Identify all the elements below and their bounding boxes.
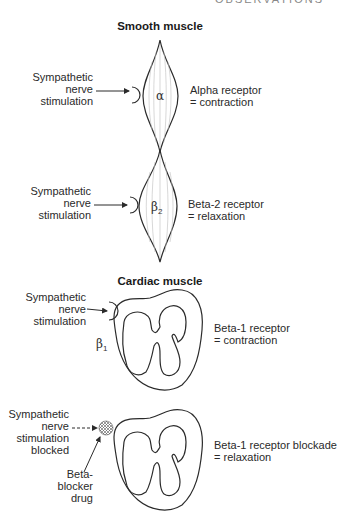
beta2-muscle-cell: β2 — [139, 150, 177, 262]
page-header-partial: OBSERVATIONS — [215, 0, 324, 5]
svg-text:= relaxation: = relaxation — [188, 210, 245, 222]
smooth-muscle-title: Smooth muscle — [117, 20, 203, 32]
svg-text:= contraction: = contraction — [214, 334, 277, 346]
beta2-stimulus-label: Sympathetic nerve stimulation — [30, 185, 91, 221]
svg-text:Sympathetic: Sympathetic — [32, 71, 93, 83]
svg-text:= relaxation: = relaxation — [214, 451, 271, 463]
svg-text:drug: drug — [71, 492, 93, 504]
svg-text:blocked: blocked — [31, 444, 69, 456]
beta2-symbol: β2 — [151, 200, 163, 216]
beta2-effect-label: Beta-2 receptor = relaxation — [188, 198, 264, 222]
blocked-stimulus-label: Sympathetic nerve stimulation blocked — [8, 408, 69, 456]
svg-text:Beta-1 receptor blockade: Beta-1 receptor blockade — [214, 439, 337, 451]
beta1-stimulus-arrow — [87, 309, 107, 311]
svg-text:nerve: nerve — [41, 420, 69, 432]
svg-text:= contraction: = contraction — [190, 96, 253, 108]
svg-text:Sympathetic: Sympathetic — [8, 408, 69, 420]
svg-text:Sympathetic: Sympathetic — [30, 185, 91, 197]
beta1-effect-label: Beta-1 receptor = contraction — [214, 322, 290, 346]
alpha-stimulus-label: Sympathetic nerve stimulation — [32, 71, 93, 107]
svg-text:Beta-2 receptor: Beta-2 receptor — [188, 198, 264, 210]
alpha-symbol: α — [156, 89, 164, 103]
drug-arrow — [84, 437, 100, 472]
svg-text:stimulation: stimulation — [33, 315, 86, 327]
svg-text:Alpha receptor: Alpha receptor — [190, 84, 262, 96]
beta1-symbol: β1 — [96, 337, 108, 353]
alpha-effect-label: Alpha receptor = contraction — [190, 84, 262, 108]
blockade-effect-label: Beta-1 receptor blockade = relaxation — [214, 439, 337, 463]
svg-text:Beta-: Beta- — [67, 468, 94, 480]
svg-text:stimulation: stimulation — [38, 209, 91, 221]
heart-blocked — [114, 410, 202, 510]
svg-text:nerve: nerve — [58, 303, 86, 315]
cardiac-muscle-title: Cardiac muscle — [117, 275, 202, 287]
beta1-stimulus-label: Sympathetic nerve stimulation — [25, 291, 86, 327]
heart-beta1 — [114, 290, 202, 390]
svg-text:nerve: nerve — [63, 197, 91, 209]
beta-blocker-bound-receptor-icon — [99, 421, 113, 435]
svg-text:Beta-1 receptor: Beta-1 receptor — [214, 322, 290, 334]
svg-text:stimulation: stimulation — [16, 432, 69, 444]
svg-text:Sympathetic: Sympathetic — [25, 291, 86, 303]
svg-text:nerve: nerve — [65, 83, 93, 95]
beta2-receptor-icon — [130, 197, 138, 213]
svg-text:blocker: blocker — [58, 480, 94, 492]
receptor-diagram: OBSERVATIONS Smooth muscle α Sympathetic… — [0, 0, 344, 523]
alpha-muscle-cell: α — [143, 40, 178, 152]
beta-blocker-drug-label: Beta- blocker drug — [58, 468, 94, 504]
alpha-receptor-icon — [132, 87, 140, 103]
svg-text:stimulation: stimulation — [40, 95, 93, 107]
